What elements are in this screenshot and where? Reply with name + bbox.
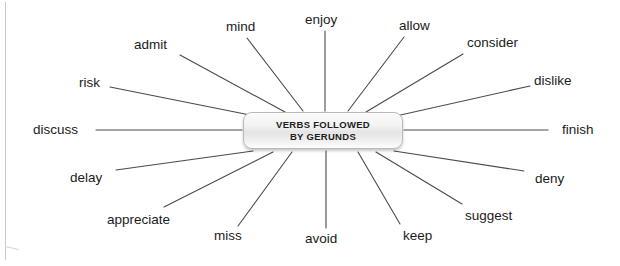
verb-label-discuss: discuss: [33, 123, 78, 137]
spoke-line-miss: [238, 152, 292, 226]
spoke-line-risk: [110, 87, 255, 116]
verb-label-dislike: dislike: [534, 74, 572, 88]
verb-label-appreciate: appreciate: [107, 213, 170, 227]
verb-label-keep: keep: [403, 229, 432, 243]
spoke-line-admit: [180, 55, 285, 112]
verb-label-admit: admit: [134, 38, 167, 52]
verb-label-consider: consider: [467, 36, 518, 50]
central-node-line-2: BY GERUNDS: [276, 131, 370, 143]
central-node: VERBS FOLLOWED BY GERUNDS: [243, 112, 403, 149]
verb-label-finish: finish: [562, 123, 594, 137]
mind-map-diagram: VERBS FOLLOWED BY GERUNDS enjoymindallow…: [0, 0, 620, 266]
spoke-line-deny: [394, 151, 524, 171]
spoke-line-allow: [348, 37, 404, 111]
spoke-line-consider: [366, 54, 463, 112]
verb-label-delay: delay: [70, 171, 102, 185]
verb-label-mind: mind: [226, 20, 255, 34]
spoke-line-appreciate: [164, 152, 273, 207]
verb-label-allow: allow: [399, 19, 430, 33]
verb-label-miss: miss: [214, 229, 242, 243]
verb-label-risk: risk: [79, 76, 100, 90]
verb-label-suggest: suggest: [465, 209, 512, 223]
verb-label-avoid: avoid: [305, 232, 337, 246]
verb-label-deny: deny: [535, 172, 564, 186]
spoke-line-delay: [116, 151, 253, 170]
central-node-line-1: VERBS FOLLOWED: [276, 119, 370, 131]
verb-label-enjoy: enjoy: [305, 13, 337, 27]
spoke-line-dislike: [396, 86, 530, 116]
central-node-text: VERBS FOLLOWED BY GERUNDS: [276, 119, 370, 143]
spoke-line-mind: [247, 38, 303, 111]
